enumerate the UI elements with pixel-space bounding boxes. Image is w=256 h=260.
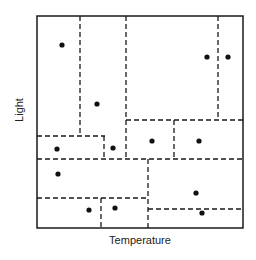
plot-frame	[37, 16, 243, 228]
data-point	[86, 207, 91, 212]
kd-partition-diagram	[0, 0, 256, 260]
data-point	[225, 54, 230, 59]
data-point	[110, 145, 115, 150]
split-lines	[37, 16, 243, 228]
data-point	[112, 205, 117, 210]
data-point	[149, 138, 154, 143]
data-point	[55, 171, 60, 176]
data-point	[199, 210, 204, 215]
data-point	[193, 190, 198, 195]
data-point	[196, 138, 201, 143]
y-axis-label: Light	[13, 98, 25, 122]
data-point	[54, 146, 59, 151]
data-point	[59, 42, 64, 47]
data-point	[204, 54, 209, 59]
data-point	[94, 101, 99, 106]
x-axis-label: Temperature	[0, 234, 256, 246]
data-points	[54, 42, 230, 215]
